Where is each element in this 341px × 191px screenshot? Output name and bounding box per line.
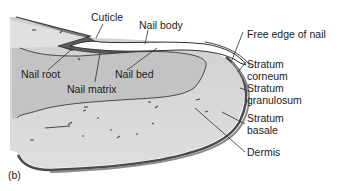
panel-label: (b) xyxy=(8,170,21,182)
label-stratum-corneum-line1: Stratum xyxy=(247,59,327,71)
label-free-edge: Free edge of nail xyxy=(247,29,326,41)
label-stratum-granulosum: Stratum granulosum xyxy=(247,83,327,106)
label-stratum-granulosum-line2: granulosum xyxy=(247,95,327,107)
label-dermis: Dermis xyxy=(247,147,280,159)
leader-cuticle xyxy=(96,24,103,38)
label-nail-body: Nail body xyxy=(139,20,183,32)
nail-anatomy-diagram: Cuticle Nail body Nail root Nail bed Nai… xyxy=(0,0,341,191)
label-stratum-basale-line1: Stratum xyxy=(247,113,327,125)
label-stratum-basale-line2: basale xyxy=(247,125,327,137)
label-nail-root: Nail root xyxy=(21,69,60,81)
label-cuticle: Cuticle xyxy=(91,12,123,24)
label-stratum-corneum: Stratum corneum xyxy=(247,59,327,82)
label-stratum-corneum-line2: corneum xyxy=(247,71,327,83)
label-nail-bed: Nail bed xyxy=(115,69,154,81)
label-stratum-granulosum-line1: Stratum xyxy=(247,83,327,95)
label-stratum-basale: Stratum basale xyxy=(247,113,327,136)
label-nail-matrix: Nail matrix xyxy=(67,84,117,96)
